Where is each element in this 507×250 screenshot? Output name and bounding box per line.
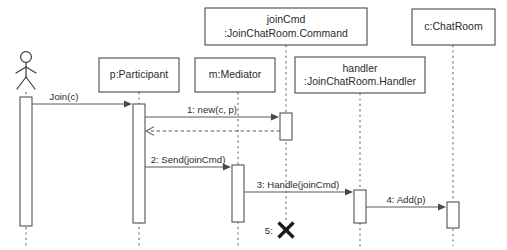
sequence-diagram: p:Participant m:Mediator joinCmd :JoinCh… bbox=[0, 0, 507, 250]
participant-label-participant: p:Participant bbox=[110, 68, 168, 80]
destruction-label: 5: bbox=[265, 225, 273, 236]
participant-label-joincmd-line2: :JoinChatRoom.Command bbox=[224, 27, 348, 39]
message-add-arrowhead bbox=[438, 203, 446, 210]
message-join[interactable]: Join(c) bbox=[32, 91, 132, 108]
participant-box-participant[interactable]: p:Participant bbox=[99, 58, 179, 92]
message-new-label: 1: new(c, p) bbox=[187, 104, 237, 115]
participant-label-handler-line2: :JoinChatRoom.Handler bbox=[304, 75, 417, 87]
message-add[interactable]: 4: Add(p) bbox=[366, 194, 446, 211]
activation-bar-participant bbox=[133, 104, 145, 223]
actor-arm-left-icon bbox=[16, 67, 26, 73]
message-handle-label: 3: Handle(joinCmd) bbox=[257, 179, 340, 190]
message-join-arrowhead bbox=[124, 100, 132, 107]
destruction-marker-joincmd[interactable]: 5: bbox=[265, 223, 294, 238]
actor-arm-right-icon bbox=[26, 67, 36, 73]
actor-figure bbox=[16, 52, 36, 89]
participant-label-chatroom: c:ChatRoom bbox=[424, 20, 483, 32]
participant-label-mediator: m:Mediator bbox=[209, 68, 262, 80]
actor-head-icon bbox=[21, 52, 32, 63]
participant-box-chatroom[interactable]: c:ChatRoom bbox=[412, 9, 495, 45]
message-handle[interactable]: 3: Handle(joinCmd) bbox=[244, 179, 353, 196]
message-join-label: Join(c) bbox=[50, 91, 79, 102]
participant-label-handler-line1: handler bbox=[342, 62, 378, 74]
participant-label-joincmd-line1: joinCmd bbox=[266, 13, 306, 25]
message-handle-arrowhead bbox=[345, 188, 353, 195]
message-add-label: 4: Add(p) bbox=[387, 194, 426, 205]
message-send-label: 2: Send(joinCmd) bbox=[151, 154, 226, 165]
diagram-canvas: p:Participant m:Mediator joinCmd :JoinCh… bbox=[0, 0, 507, 250]
actor-leg-right-icon bbox=[26, 77, 35, 89]
activation-bar-chatroom bbox=[447, 202, 459, 228]
activation-bar-actor bbox=[20, 97, 32, 226]
activation-bar-mediator bbox=[232, 165, 244, 222]
message-new-arrowhead bbox=[271, 113, 279, 120]
participant-box-handler[interactable]: handler :JoinChatRoom.Handler bbox=[295, 57, 425, 93]
message-send[interactable]: 2: Send(joinCmd) bbox=[145, 154, 231, 171]
participant-box-joincmd[interactable]: joinCmd :JoinChatRoom.Command bbox=[205, 8, 367, 45]
actor-leg-left-icon bbox=[17, 77, 26, 89]
message-return[interactable] bbox=[146, 127, 280, 136]
activation-bar-handler bbox=[354, 190, 366, 223]
activation-bar-joincmd bbox=[280, 113, 292, 140]
participant-box-mediator[interactable]: m:Mediator bbox=[195, 58, 275, 92]
message-new[interactable]: 1: new(c, p) bbox=[145, 104, 279, 121]
